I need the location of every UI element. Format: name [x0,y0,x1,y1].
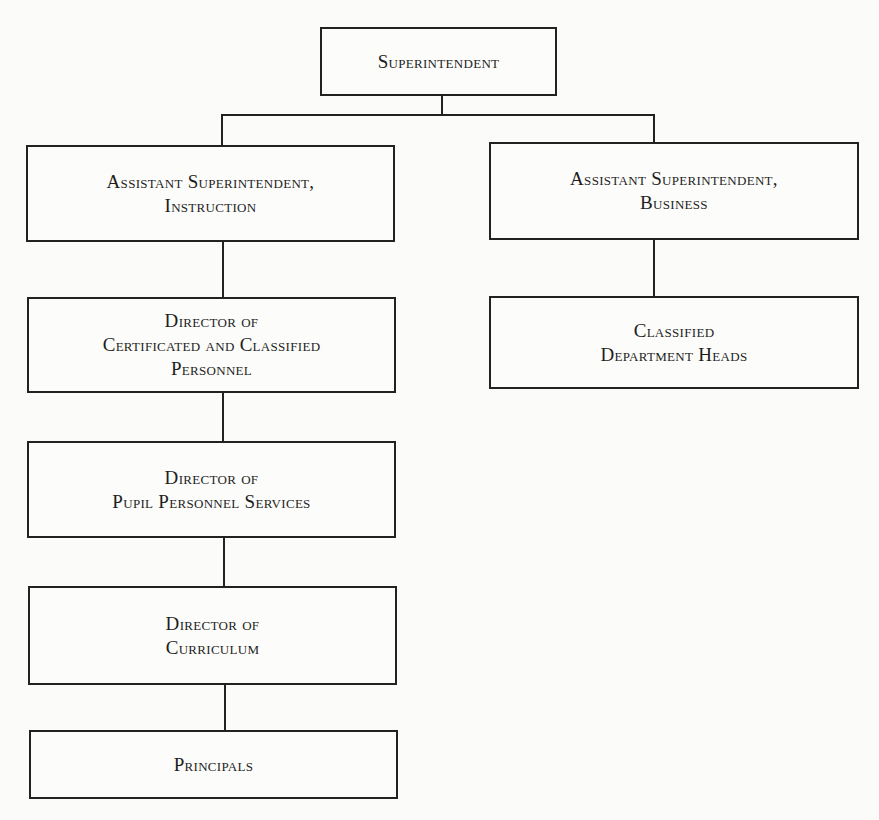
node-asst-superintendent-instruction: Assistant Superintendent, Instruction [26,145,395,242]
node-label: Principals [174,753,254,777]
node-label: Department Heads [601,343,748,367]
node-director-pupil-personnel: Director of Pupil Personnel Services [27,441,396,538]
node-label: Curriculum [166,636,260,660]
connector-pupil-to-curriculum [223,537,225,587]
node-label: Business [640,191,708,215]
node-label: Assistant Superintendent, [570,167,778,191]
connector-superintendent-down [441,95,443,116]
node-director-personnel: Director of Certificated and Classified … [27,297,396,393]
node-label: Pupil Personnel Services [112,490,310,514]
connector-to-asst-business [653,114,655,143]
connector-business-to-classified [653,239,655,297]
node-label: Classified [634,319,715,343]
node-label: Director of [165,309,259,333]
node-director-curriculum: Director of Curriculum [28,586,397,685]
connector-top-horizontal [221,114,655,116]
node-principals: Principals [29,730,398,799]
node-label: Director of [165,466,259,490]
node-label: Superintendent [378,50,500,74]
node-label: Personnel [171,357,252,381]
connector-to-asst-instruction [221,114,223,146]
node-classified-department-heads: Classified Department Heads [489,296,859,389]
node-superintendent: Superintendent [320,27,557,96]
node-asst-superintendent-business: Assistant Superintendent, Business [489,142,859,240]
node-label: Certificated and Classified [103,333,321,357]
connector-instruction-to-personnel [222,241,224,298]
node-label: Instruction [165,194,257,218]
node-label: Director of [166,612,260,636]
node-label: Assistant Superintendent, [107,170,315,194]
connector-curriculum-to-principals [224,684,226,731]
connector-personnel-to-pupil [222,392,224,442]
